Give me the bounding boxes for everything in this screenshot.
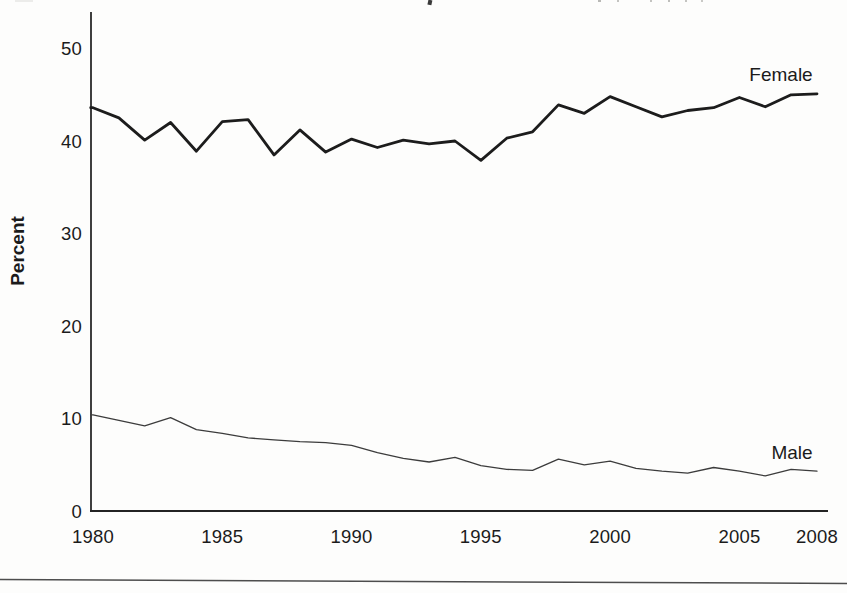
y-tick-label-10: 10 xyxy=(61,408,82,429)
x-tick-label-2008: 2008 xyxy=(796,526,838,547)
y-axis-title: Percent xyxy=(7,215,28,285)
x-tick-label-2000: 2000 xyxy=(589,526,631,547)
cropped-title-fragment xyxy=(668,0,670,2)
x-tick-label-2005: 2005 xyxy=(718,526,760,547)
y-tick-label-20: 20 xyxy=(61,316,82,337)
cropped-title-fragment xyxy=(701,0,703,2)
x-tick-label-1995: 1995 xyxy=(460,526,502,547)
cropped-title-fragment xyxy=(685,0,687,2)
cropped-title-fragment xyxy=(650,0,652,2)
y-tick-label-0: 0 xyxy=(72,501,83,522)
x-tick-label-1985: 1985 xyxy=(201,526,243,547)
y-tick-label-50: 50 xyxy=(61,38,82,59)
cropped-title-fragment xyxy=(427,0,432,5)
male-series-line xyxy=(91,415,817,476)
y-tick-labels: 01020304050 xyxy=(61,38,82,522)
y-tick-label-30: 30 xyxy=(61,223,82,244)
x-tick-label-1980: 1980 xyxy=(72,526,114,547)
cropped-title-fragment xyxy=(617,0,619,2)
cropped-title-fragments xyxy=(15,0,703,5)
y-tick-label-40: 40 xyxy=(61,131,82,152)
female-series-line xyxy=(91,94,817,161)
figure-page: Percent 01020304050 19801985199019952000… xyxy=(0,0,847,593)
cropped-title-fragment xyxy=(598,0,601,2)
cropped-title-fragment xyxy=(15,0,33,2)
male-series-label: Male xyxy=(771,442,812,463)
x-tick-label-1990: 1990 xyxy=(331,526,373,547)
x-tick-labels: 1980198519901995200020052008 xyxy=(72,526,838,547)
line-chart: Percent 01020304050 19801985199019952000… xyxy=(0,0,847,593)
female-series-label: Female xyxy=(749,64,812,85)
bottom-page-rule xyxy=(0,580,847,584)
